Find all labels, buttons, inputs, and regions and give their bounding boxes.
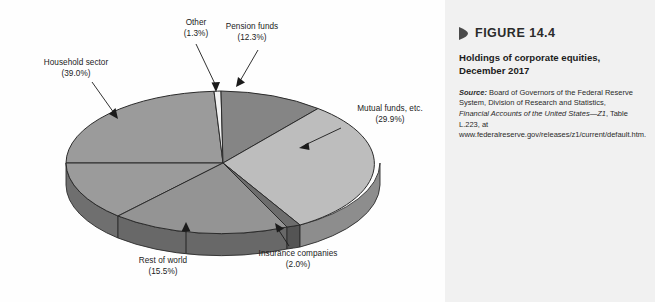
- leader-line-other: [196, 44, 216, 86]
- leader-line-pension: [240, 50, 258, 81]
- slice-label-other: Other (1.3%): [174, 18, 218, 39]
- slice-label-insurance-name: Insurance companies: [259, 249, 338, 258]
- figure-number: FIGURE 14.4: [475, 26, 556, 40]
- slice-top-household: [66, 91, 223, 163]
- figure-container: Other (1.3%) Pension funds (12.3%) House…: [0, 0, 655, 302]
- figure-source-label: Source:: [459, 88, 487, 97]
- pie-chart-svg: [0, 0, 445, 302]
- pie-chart-area: Other (1.3%) Pension funds (12.3%) House…: [0, 0, 445, 302]
- leader-line-household: [92, 82, 114, 113]
- triangle-right-icon: [459, 27, 468, 40]
- slice-label-insurance-pct: (2.0%): [246, 260, 350, 271]
- slice-label-restofworld-name: Rest of world: [139, 256, 187, 265]
- slice-label-insurance: Insurance companies (2.0%): [246, 249, 350, 270]
- slice-label-restofworld: Rest of world (15.5%): [124, 256, 202, 277]
- leader-arrow-pension: [236, 77, 245, 87]
- slice-label-mutual: Mutual funds, etc. (29.9%): [344, 104, 436, 125]
- leader-arrow-other: [212, 82, 221, 92]
- slice-label-mutual-name: Mutual funds, etc.: [357, 104, 423, 113]
- slice-label-pension-pct: (12.3%): [214, 33, 290, 44]
- figure-source-italic: Financial Accounts of the United States—…: [459, 109, 606, 118]
- figure-caption-panel: FIGURE 14.4 Holdings of corporate equiti…: [445, 0, 655, 302]
- slice-label-other-name: Other: [186, 18, 207, 27]
- figure-header: FIGURE 14.4: [459, 26, 639, 40]
- slice-label-household-pct: (39.0%): [26, 69, 126, 80]
- slice-label-pension-name: Pension funds: [226, 22, 279, 31]
- slice-label-pension: Pension funds (12.3%): [214, 22, 290, 43]
- slice-label-restofworld-pct: (15.5%): [124, 267, 202, 278]
- slice-label-household: Household sector (39.0%): [26, 58, 126, 79]
- figure-source: Source: Board of Governors of the Federa…: [459, 88, 635, 141]
- figure-subtitle: Holdings of corporate equities, December…: [459, 51, 631, 78]
- slice-label-household-name: Household sector: [44, 58, 109, 67]
- slice-label-mutual-pct: (29.9%): [344, 115, 436, 126]
- slice-label-other-pct: (1.3%): [174, 29, 218, 40]
